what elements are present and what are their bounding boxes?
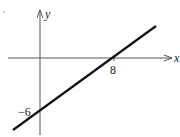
plotted-line — [13, 26, 156, 130]
y-axis-label: y — [44, 7, 51, 21]
x-intercept-label: 8 — [110, 63, 116, 77]
corner-dot — [3, 11, 5, 13]
x-axis-label: x — [173, 51, 180, 65]
graph: x y 8 −6 — [0, 0, 180, 137]
y-intercept-label: −6 — [18, 105, 31, 119]
